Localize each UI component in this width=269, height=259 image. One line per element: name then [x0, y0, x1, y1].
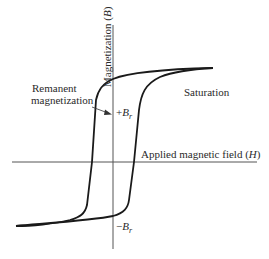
- plus-br-label: +Br: [116, 106, 132, 123]
- remanent-label-line2: magnetization: [31, 94, 93, 106]
- y-axis-label: Magnetization (B): [101, 7, 113, 87]
- remanent-pointer-arrowhead: [104, 110, 112, 116]
- remanent-label-line1: Remanent: [32, 82, 77, 94]
- minus-br-label: −Br: [116, 220, 132, 237]
- x-axis-label: Applied magnetic field (H): [141, 148, 260, 160]
- hysteresis-plot: [0, 0, 269, 259]
- hysteresis-diagram: Magnetization (B) Remanent magnetization…: [0, 0, 269, 259]
- saturation-label: Saturation: [184, 86, 229, 98]
